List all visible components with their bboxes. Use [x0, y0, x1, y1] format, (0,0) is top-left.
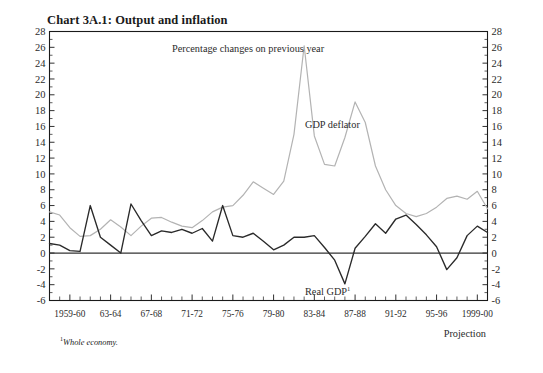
- x-tick-label: 91-92: [385, 309, 407, 319]
- footnote-text: Whole economy.: [63, 338, 118, 347]
- x-axis-labels: 1959-6063-6467-6871-7275-7679-8083-8487-…: [54, 309, 493, 319]
- y-tick-label: 28: [492, 26, 503, 37]
- x-tick-label: 63-64: [100, 309, 122, 319]
- y-tick-label: 12: [492, 153, 503, 164]
- y-tick-label: 20: [35, 89, 46, 100]
- y-tick-label: 18: [35, 105, 46, 116]
- y-tick-label: 0: [492, 248, 497, 259]
- y-tick-label: 4: [492, 216, 498, 227]
- y-tick-label: 12: [35, 153, 46, 164]
- y-tick-label: -6: [492, 295, 501, 306]
- y-axis-left: -6-4-20246810121416182022242628: [35, 26, 55, 306]
- projection-label: Projection: [444, 328, 486, 339]
- series-label-real-gdp: Real GDP1: [305, 285, 350, 297]
- y-tick-label: -2: [37, 264, 46, 275]
- page-title: Chart 3A.1: Output and inflation: [47, 13, 228, 28]
- y-tick-label: 20: [492, 89, 503, 100]
- x-tick-label: 1999-00: [462, 309, 493, 319]
- output-and-inflation-chart: -6-4-20246810121416182022242628 -6-4-202…: [0, 0, 543, 373]
- y-tick-label: 24: [492, 58, 503, 69]
- series-line-gdp-deflator: [50, 46, 488, 237]
- y-tick-label: -4: [492, 279, 501, 290]
- x-tick-label: 1959-60: [54, 309, 85, 319]
- y-tick-label: 18: [492, 105, 503, 116]
- y-tick-label: 6: [492, 200, 497, 211]
- plot-frame: [50, 32, 488, 301]
- y-tick-label: 2: [40, 232, 45, 243]
- x-tick-label: 95-96: [426, 309, 448, 319]
- series-line-real-gdp: [50, 204, 488, 284]
- y-tick-label: 14: [35, 137, 46, 148]
- series-label-gdp-deflator: GDP deflator: [305, 119, 360, 130]
- x-tick-label: 75-76: [222, 309, 244, 319]
- x-tick-label: 83-84: [303, 309, 325, 319]
- x-tick-label: 71-72: [181, 309, 203, 319]
- y-tick-label: -4: [37, 279, 46, 290]
- y-tick-label: 14: [492, 137, 503, 148]
- footnote: 1Whole economy.: [60, 336, 118, 347]
- x-axis-ticks: [50, 295, 488, 301]
- y-tick-label: 10: [492, 169, 503, 180]
- y-tick-label: 8: [492, 184, 497, 195]
- y-tick-label: 2: [492, 232, 497, 243]
- x-tick-label: 79-80: [263, 309, 285, 319]
- y-tick-label: -6: [37, 295, 46, 306]
- x-tick-label: 87-88: [344, 309, 366, 319]
- y-tick-label: 26: [35, 42, 46, 53]
- chart-figure: Chart 3A.1: Output and inflation -6-4-20…: [0, 0, 543, 373]
- y-tick-label: 10: [35, 169, 46, 180]
- y-tick-label: 16: [35, 121, 46, 132]
- y-tick-label: 4: [40, 216, 46, 227]
- y-axis-right: -6-4-20246810121416182022242628: [483, 26, 503, 306]
- y-tick-label: 6: [40, 200, 45, 211]
- x-tick-label: 67-68: [141, 309, 163, 319]
- y-tick-label: 24: [35, 58, 46, 69]
- y-tick-label: 26: [492, 42, 503, 53]
- y-tick-label: 22: [492, 74, 503, 85]
- y-tick-label: 16: [492, 121, 503, 132]
- chart-subtitle: Percentage changes on previous year: [172, 43, 325, 54]
- y-tick-label: 0: [40, 248, 45, 259]
- y-tick-label: 22: [35, 74, 46, 85]
- y-tick-label: -2: [492, 264, 501, 275]
- y-tick-label: 8: [40, 184, 45, 195]
- y-tick-label: 28: [35, 26, 46, 37]
